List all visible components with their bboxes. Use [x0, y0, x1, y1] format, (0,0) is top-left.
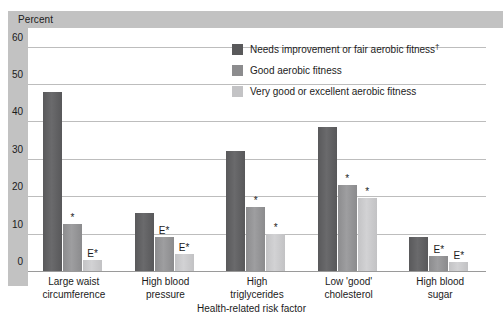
y-axis-tick-label: 0: [17, 256, 23, 267]
category-label-line: Low 'good': [303, 276, 395, 289]
legend-item[interactable]: Very good or excellent aerobic fitness: [232, 83, 482, 99]
bar: *: [63, 224, 82, 271]
legend-item[interactable]: Good aerobic fitness: [232, 62, 482, 78]
x-axis-line: [28, 271, 486, 272]
bar-annotation: *: [365, 186, 369, 197]
bar-group: E*E*: [135, 28, 194, 272]
legend-label: Very good or excellent aerobic fitness: [250, 86, 416, 97]
x-axis-category-label: Hightriglycerides: [211, 276, 303, 301]
legend-swatch: [232, 86, 243, 97]
bar-annotation: *: [254, 195, 258, 206]
legend-dagger-marker: †: [435, 42, 439, 51]
bar: E*: [429, 256, 448, 271]
category-label-line: circumference: [28, 289, 120, 302]
x-axis-category-label: High bloodpressure: [120, 276, 212, 301]
y-axis-title: Percent: [18, 13, 53, 26]
legend-item[interactable]: Needs improvement or fair aerobic fitnes…: [232, 41, 482, 57]
legend-label: Needs improvement or fair aerobic fitnes…: [250, 42, 440, 55]
category-label-line: cholesterol: [303, 289, 395, 302]
x-axis-title: Health-related risk factor: [0, 303, 503, 314]
bar: [318, 127, 337, 271]
category-label-line: High blood: [120, 276, 212, 289]
bar: [43, 92, 62, 271]
y-axis-tick-label: 20: [12, 181, 23, 192]
y-axis-tick-label: 40: [12, 106, 23, 117]
category-label-line: High: [211, 276, 303, 289]
category-label-line: triglycerides: [211, 289, 303, 302]
bar-annotation: *: [345, 173, 349, 184]
bar-group: *E*: [43, 28, 102, 272]
bar-annotation: E*: [179, 242, 190, 253]
x-axis-category-label: High bloodsugar: [394, 276, 486, 301]
bar: E*: [155, 237, 174, 271]
x-axis-category-label: Large waistcircumference: [28, 276, 120, 301]
x-axis-category-label: Low 'good'cholesterol: [303, 276, 395, 301]
bar: [409, 237, 428, 271]
y-axis-tick-label: 10: [12, 218, 23, 229]
category-label-line: sugar: [394, 289, 486, 302]
y-axis-tick-label: 50: [12, 69, 23, 80]
bar: E*: [175, 254, 194, 271]
bar: *: [266, 234, 285, 271]
bar-annotation: E*: [159, 225, 170, 236]
legend-swatch: [232, 65, 243, 76]
bar-annotation: E*: [434, 244, 445, 255]
legend-swatch: [232, 44, 243, 55]
bar: *: [358, 198, 377, 271]
bar-annotation: E*: [454, 250, 465, 261]
legend-label: Good aerobic fitness: [250, 65, 342, 76]
chart-legend: Needs improvement or fair aerobic fitnes…: [232, 41, 482, 104]
y-axis-tick-label: 30: [12, 143, 23, 154]
bar: [135, 213, 154, 271]
bar: E*: [449, 262, 468, 271]
category-label-line: Large waist: [28, 276, 120, 289]
bar: *: [246, 207, 265, 271]
y-axis-tick-label: 60: [12, 31, 23, 42]
category-label-line: pressure: [120, 289, 212, 302]
bar: E*: [83, 260, 102, 271]
category-label-line: High blood: [394, 276, 486, 289]
bar: [226, 151, 245, 271]
bar: *: [338, 185, 357, 271]
category-labels: Large waistcircumferenceHigh bloodpressu…: [28, 276, 486, 306]
percent-band: [8, 11, 503, 28]
bar-annotation: *: [71, 212, 75, 223]
chart-figure: Percent 0102030405060 *E*E*E*****E*E* La…: [0, 0, 503, 324]
bar-annotation: *: [274, 222, 278, 233]
bar-annotation: E*: [87, 248, 98, 259]
